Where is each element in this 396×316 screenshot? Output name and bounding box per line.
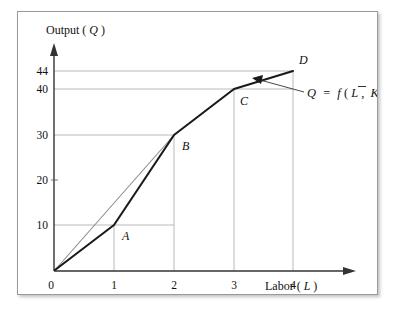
point-label-a: A [121, 229, 130, 243]
curve-label-leader [252, 75, 304, 92]
y-axis-title-variable: Q [89, 23, 98, 37]
curve-label-leader-line [260, 80, 304, 92]
y-tick-label-44: 44 [37, 65, 49, 77]
point-label-c: C [240, 94, 249, 108]
y-axis-arrowhead [50, 43, 58, 56]
point-label-d: D [298, 53, 308, 67]
y-tick-labels: 44 40 30 20 10 [37, 65, 49, 231]
curve-label-comma: , [361, 86, 364, 100]
y-axis-title-paren-close: ) [101, 23, 105, 37]
y-tick-label-30: 30 [37, 129, 49, 141]
x-axis-title-paren-open: ( [297, 279, 301, 293]
x-tick-label-3: 3 [231, 279, 237, 291]
axes [50, 43, 356, 275]
curve-label-f: f [337, 86, 342, 100]
y-tick-label-10: 10 [37, 219, 49, 231]
x-tick-label-2: 2 [171, 279, 177, 291]
production-function-chart: 44 40 30 20 10 0 1 2 3 4 A B C D Output [18, 12, 377, 294]
curve-label-arg-l: L [350, 86, 358, 100]
average-product-ray [55, 135, 174, 270]
curve-label-arg-k: K [370, 86, 377, 100]
x-tick-label-0: 0 [48, 279, 54, 291]
curve-equation-label: Q = f ( L , K ) [307, 86, 377, 100]
x-axis-title-variable: L [303, 279, 311, 293]
y-axis-title-paren-open: ( [82, 23, 86, 37]
x-axis-title-text: Labor [265, 279, 294, 293]
x-tick-labels: 0 1 2 3 4 [48, 279, 296, 291]
x-axis-title: Labor ( L ) [265, 279, 317, 293]
y-axis-title: Output ( Q ) [46, 23, 105, 37]
point-labels: A B C D [121, 53, 308, 243]
x-tick-label-1: 1 [111, 279, 117, 291]
point-label-b: B [182, 139, 190, 153]
x-axis-title-paren-close: ) [313, 279, 317, 293]
figure-frame: 44 40 30 20 10 0 1 2 3 4 A B C D Output [17, 11, 378, 295]
curve-label-equals: = [323, 86, 330, 100]
y-tick-label-20: 20 [37, 174, 49, 186]
vertical-gridlines [114, 71, 293, 271]
y-axis-title-text: Output [46, 23, 80, 37]
curve-label-q: Q [307, 86, 316, 100]
curve-label-paren-open: ( [344, 86, 348, 100]
horizontal-gridlines [54, 71, 293, 225]
x-axis-arrowhead [343, 267, 356, 275]
y-tick-label-40: 40 [37, 83, 49, 95]
